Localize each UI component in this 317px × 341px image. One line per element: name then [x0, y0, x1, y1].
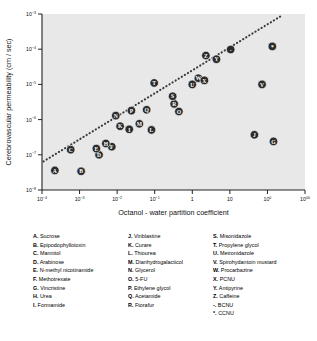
legend-item: E. N-methyl nicotinamide — [33, 266, 128, 275]
legend-item: *. CCNU — [213, 309, 317, 318]
x-tick-label: 10−3 — [75, 196, 85, 202]
x-tick-label: 1000 — [300, 196, 310, 202]
x-tick-label: 10−4 — [37, 196, 47, 202]
legend-item-label: Glycerol — [133, 267, 154, 273]
legend-item: P. Ethylene glycol — [128, 284, 213, 293]
data-point: Z — [202, 51, 211, 60]
legend-item-label: 5-FU — [134, 276, 148, 282]
data-point-label: H — [104, 141, 109, 147]
legend-item: L. Thiourea — [128, 249, 213, 258]
legend-item: J. Vinblastine — [128, 232, 213, 241]
data-point-label: M — [137, 121, 143, 127]
x-tick-label: 1 — [191, 196, 194, 202]
figure: 10−410−310−210−1110100100010−810−710−610… — [0, 0, 317, 341]
y-tick-label: 10−3 — [26, 11, 36, 17]
data-point: X — [200, 76, 209, 85]
y-tick-label: 10−4 — [26, 46, 36, 52]
x-tick-label: 10 — [227, 196, 233, 202]
legend-item-label: Acetamide — [134, 293, 161, 299]
legend-column-3: S. MisonidazoleT. Propylene glycolU. Met… — [213, 232, 317, 341]
legend-item: I. Formamide — [33, 301, 128, 310]
legend-item-label: Curare — [133, 242, 151, 248]
data-point-label: K — [118, 123, 123, 129]
data-point-label: F — [110, 144, 114, 150]
data-point-label: * — [271, 44, 274, 50]
x-tick-label: 100 — [264, 196, 272, 202]
data-point: M — [135, 119, 144, 128]
legend-item-label: Ftorafur — [133, 302, 154, 308]
y-axis-title: Cerebrovascular permeability (cm / sec) — [4, 38, 13, 165]
legend-item: Y. Antipyrine — [213, 284, 317, 293]
data-point-label: P — [130, 108, 134, 114]
legend-item-label: Epipodophyllotoxin — [38, 242, 85, 248]
data-point-label: G — [271, 139, 276, 145]
legend-item: D. Arabinose — [33, 258, 128, 267]
data-point-label: B — [79, 168, 83, 174]
data-point-label: U — [190, 82, 194, 88]
data-point-label: T — [152, 80, 156, 86]
data-point-label: E — [95, 146, 99, 152]
legend-item-label: Propylene glycol — [217, 242, 258, 248]
y-tick-label: 10−5 — [26, 81, 36, 87]
data-point: C — [66, 145, 75, 154]
legend-item-label: Mannitol — [38, 250, 60, 256]
legend-item-label: Antipyrine — [218, 285, 243, 291]
data-point: G — [269, 137, 278, 146]
x-axis-title: Octanol - water partition coefficient — [118, 208, 229, 217]
scatter-plot: 10−410−310−210−1110100100010−810−710−610… — [0, 0, 317, 228]
data-point: S — [168, 92, 177, 101]
legend-item: T. Propylene glycol — [213, 241, 317, 250]
data-point: R — [170, 100, 179, 109]
legend-item-label: Ethylene glycol — [132, 285, 170, 291]
legend-item-label: Arabinose — [38, 259, 64, 265]
legend-item: O. 5-FU — [128, 275, 213, 284]
data-point: - — [226, 45, 235, 54]
legend-item: R. Ftorafur — [128, 301, 213, 310]
data-point: J — [250, 130, 259, 139]
legend-item-label: Thiourea — [133, 250, 156, 256]
legend-item: Q. Acetamide — [128, 292, 213, 301]
x-tick-label: 10−2 — [112, 196, 122, 202]
data-point-label: L — [150, 127, 154, 133]
legend-item-label: Dianhydrogalacticol — [134, 259, 183, 265]
legend-item-label: Formamide — [36, 302, 65, 308]
legend-item: S. Misonidazole — [213, 232, 317, 241]
data-point: I — [125, 125, 134, 134]
legend-item: G. Vincristine — [33, 284, 128, 293]
legend-item-label: Spirohydantoin mustard — [218, 259, 277, 265]
legend: A. SucroseB. EpipodophyllotoxinC. Mannit… — [0, 232, 317, 341]
legend-item-label: BCNU — [216, 302, 233, 308]
data-point: K — [116, 122, 125, 131]
legend-item-label: Caffeine — [218, 293, 240, 299]
data-point: O — [175, 107, 184, 116]
legend-item: W. Procarbazine — [213, 266, 317, 275]
data-point: L — [147, 126, 156, 135]
legend-item: M. Dianhydrogalacticol — [128, 258, 213, 267]
legend-column-1: A. SucroseB. EpipodophyllotoxinC. Mannit… — [33, 232, 128, 341]
y-tick-label: 10−8 — [26, 187, 36, 193]
data-point: B — [77, 167, 86, 176]
data-point-label: O — [177, 109, 182, 115]
legend-item-label: PCNU — [218, 276, 235, 282]
data-point-label: C — [69, 147, 73, 153]
legend-item: X. PCNU — [213, 275, 317, 284]
legend-item: K. Curare — [128, 241, 213, 250]
legend-column-2: J. VinblastineK. CurareL. ThioureaM. Dia… — [128, 232, 213, 341]
data-point: Y — [212, 55, 221, 64]
data-point-label: Q — [144, 107, 149, 113]
legend-item: H. Urea — [33, 292, 128, 301]
legend-item: F. Methotrexate — [33, 275, 128, 284]
data-point: T — [150, 79, 159, 88]
legend-item: -. BCNU — [213, 301, 317, 310]
data-point: E — [92, 144, 101, 153]
data-point-label: A — [53, 168, 57, 174]
data-point: V — [258, 80, 267, 89]
legend-item-label: Misonidazole — [218, 233, 251, 239]
data-point-label: Z — [204, 53, 208, 59]
data-point: * — [268, 42, 277, 51]
data-point-label: - — [230, 47, 232, 53]
data-point-label: S — [171, 93, 174, 99]
legend-item: B. Epipodophyllotoxin — [33, 241, 128, 250]
legend-item-label: Methotrexate — [37, 276, 70, 282]
data-point-label: J — [253, 132, 256, 138]
